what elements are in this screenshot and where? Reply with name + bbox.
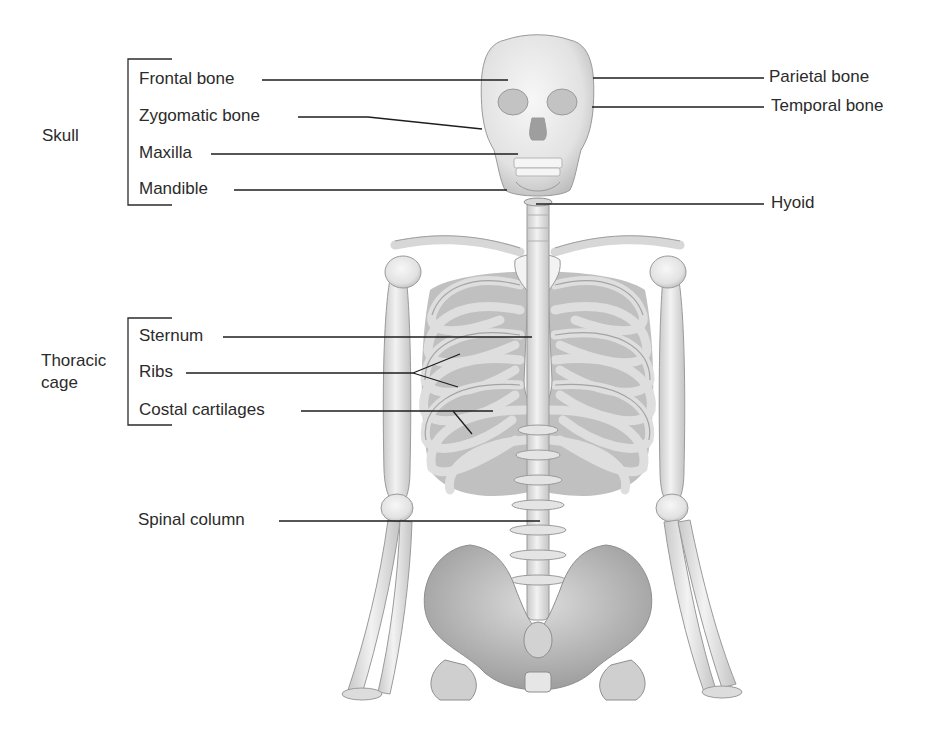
thoracic-group-text-line1: Thoracic: [41, 350, 106, 372]
label-ribs: Ribs: [139, 362, 173, 382]
label-temporal-bone: Temporal bone: [771, 96, 883, 116]
group-label-skull: Skull: [42, 126, 79, 146]
left-arm: [342, 268, 413, 700]
thoracic-group-text-line2: cage: [41, 372, 106, 394]
label-spinal-column: Spinal column: [138, 510, 245, 530]
label-hyoid: Hyoid: [771, 193, 814, 213]
skull-group-text: Skull: [42, 126, 79, 145]
label-costal-cartilages: Costal cartilages: [139, 400, 265, 420]
hyoid-shape: [524, 198, 552, 206]
label-maxilla: Maxilla: [139, 143, 192, 163]
label-sternum: Sternum: [139, 326, 203, 346]
label-zygomatic-bone: Zygomatic bone: [139, 106, 260, 126]
skeleton-diagram: Skull Thoracic cage Frontal bone Zygomat…: [0, 0, 948, 731]
leader-zygomatic: [298, 117, 482, 129]
skull: [481, 35, 594, 196]
label-frontal-bone: Frontal bone: [139, 69, 234, 89]
right-arm: [656, 268, 742, 698]
label-mandible: Mandible: [139, 179, 208, 199]
label-parietal-bone: Parietal bone: [769, 67, 869, 87]
left-shoulder: [385, 256, 421, 288]
right-shoulder: [650, 256, 686, 288]
group-label-thoracic-cage: Thoracic cage: [41, 350, 106, 394]
